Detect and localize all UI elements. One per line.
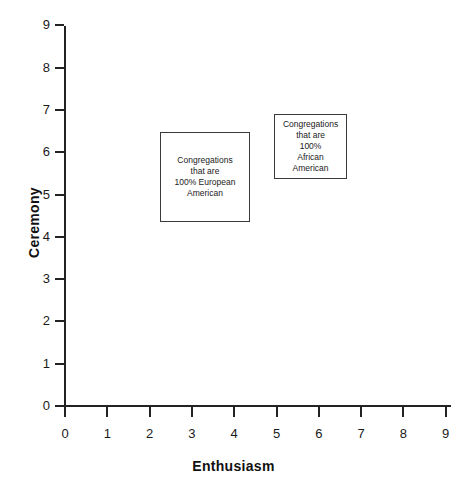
x-axis-line <box>65 405 451 407</box>
origin-tick-mark <box>64 396 66 407</box>
annotation-label: Congregations that are 100% European Ame… <box>172 155 239 199</box>
x-tick-label: 7 <box>353 427 369 440</box>
y-tick-mark <box>55 67 64 69</box>
x-tick-mark <box>106 407 108 417</box>
y-tick-label: 2 <box>34 314 50 327</box>
y-tick-label: 3 <box>34 272 50 285</box>
x-tick-mark <box>445 407 447 417</box>
x-tick-label: 8 <box>395 427 411 440</box>
x-axis-title: Enthusiasm <box>0 458 467 474</box>
x-tick-label: 6 <box>311 427 327 440</box>
x-tick-label: 3 <box>184 427 200 440</box>
y-tick-mark <box>55 405 64 407</box>
x-tick-mark <box>64 407 66 417</box>
x-tick-mark <box>318 407 320 417</box>
y-tick-mark <box>55 194 64 196</box>
x-tick-mark <box>360 407 362 417</box>
y-tick-mark <box>55 151 64 153</box>
y-tick-mark <box>55 320 64 322</box>
x-tick-mark <box>402 407 404 417</box>
y-tick-label: 1 <box>34 357 50 370</box>
x-tick-mark <box>149 407 151 417</box>
x-tick-mark <box>233 407 235 417</box>
y-axis-title: Ceremony <box>26 187 42 258</box>
chart-figure: 0123456789 0123456789 Congregations that… <box>0 0 467 486</box>
x-tick-label: 1 <box>99 427 115 440</box>
x-tick-label: 9 <box>438 427 454 440</box>
y-axis-line <box>64 26 66 407</box>
y-tick-label: 0 <box>34 399 50 412</box>
annotation-label: Congregations that are 100% African Amer… <box>280 119 341 173</box>
annotation-box-african-american: Congregations that are 100% African Amer… <box>274 114 347 179</box>
y-tick-mark <box>55 363 64 365</box>
x-tick-label: 0 <box>57 427 73 440</box>
y-tick-label: 9 <box>34 18 50 31</box>
y-tick-label: 6 <box>34 145 50 158</box>
x-tick-label: 4 <box>226 427 242 440</box>
x-tick-mark <box>276 407 278 417</box>
y-tick-mark <box>55 109 64 111</box>
y-tick-mark <box>55 236 64 238</box>
x-tick-label: 2 <box>142 427 158 440</box>
y-tick-label: 8 <box>34 61 50 74</box>
x-tick-label: 5 <box>269 427 285 440</box>
y-tick-mark <box>55 24 64 26</box>
y-tick-label: 7 <box>34 103 50 116</box>
y-tick-mark <box>55 278 64 280</box>
annotation-box-european-american: Congregations that are 100% European Ame… <box>160 132 250 222</box>
x-tick-mark <box>191 407 193 417</box>
